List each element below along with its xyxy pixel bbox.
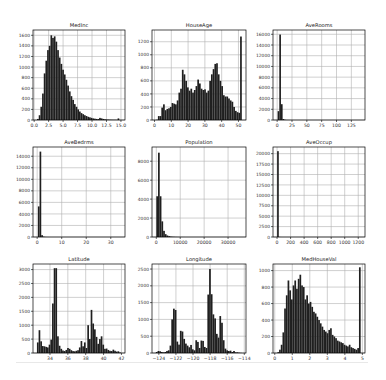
- histogram-bar: [330, 328, 332, 353]
- histogram-bar: [49, 345, 51, 353]
- plot-area: [273, 147, 365, 237]
- histogram-bar: [156, 196, 158, 237]
- histogram-bar: [207, 295, 209, 353]
- y-tick-label: 400: [22, 96, 31, 101]
- histogram-bar: [182, 332, 184, 353]
- histogram-bar: [214, 64, 216, 120]
- histogram-bar: [216, 63, 218, 120]
- y-tick-label: 1000: [138, 52, 149, 57]
- histogram-bar: [213, 69, 215, 120]
- histogram-bar: [40, 341, 42, 353]
- x-tick-label: 10: [168, 123, 174, 128]
- histogram-bar: [190, 89, 192, 120]
- histogram-bar: [209, 81, 211, 120]
- histogram-bar: [82, 346, 84, 353]
- x-tick-label: 2.5: [45, 123, 52, 128]
- histogram-bar: [235, 111, 237, 120]
- histogram-bar: [201, 89, 203, 120]
- y-tick-label: 6000: [138, 178, 149, 183]
- histogram-bar: [228, 98, 230, 120]
- histogram-bar: [96, 337, 98, 353]
- histogram-bar: [211, 74, 213, 120]
- histogram-bar: [38, 206, 40, 237]
- y-tick-label: 6000: [259, 85, 270, 90]
- histogram-bar: [187, 346, 189, 353]
- x-tick-label: 30000: [221, 240, 236, 245]
- x-tick-label: 7.5: [74, 123, 81, 128]
- histogram-bar: [344, 345, 346, 353]
- x-tick-label: 75: [319, 123, 325, 128]
- y-tick-label: 400: [141, 92, 150, 97]
- histogram-bar: [74, 104, 76, 120]
- histogram-bar: [54, 36, 56, 120]
- x-tick-label: 36: [65, 356, 71, 361]
- y-tick-label: 2000: [19, 295, 30, 300]
- histogram-bar: [306, 295, 308, 353]
- y-tick-label: 8000: [138, 159, 149, 164]
- histogram-bar: [39, 115, 41, 120]
- histogram-bar: [342, 343, 344, 353]
- histogram-bar: [213, 314, 215, 353]
- histogram-bar: [204, 89, 206, 120]
- x-tick-label: 2: [308, 356, 311, 361]
- y-tick-label: 200: [22, 107, 31, 112]
- histogram-bar: [320, 323, 322, 353]
- histogram-bar: [202, 90, 204, 120]
- x-tick-label: 0: [276, 123, 279, 128]
- histogram-bar: [305, 299, 307, 353]
- histogram-bar: [313, 312, 315, 353]
- y-tick-label: 500: [141, 334, 150, 339]
- y-tick-label: 600: [141, 78, 150, 83]
- y-tick-label: 500: [22, 337, 31, 342]
- histogram-bar: [284, 309, 286, 354]
- histogram-bar: [289, 290, 291, 353]
- histogram-bar: [237, 112, 239, 120]
- histogram-bar: [89, 339, 91, 353]
- histogram-bar: [52, 303, 54, 353]
- x-tick-label: 10.0: [87, 123, 97, 128]
- histogram-bar: [185, 81, 187, 120]
- histogram-bar: [354, 349, 356, 353]
- histogram-bar: [47, 50, 49, 120]
- y-tick-label: 17500: [256, 162, 270, 167]
- histogram-bar: [216, 334, 218, 353]
- histogram-bar: [170, 346, 172, 353]
- histogram-bar: [350, 347, 352, 353]
- x-tick-label: 1200: [352, 240, 364, 245]
- histogram-bar: [163, 104, 165, 120]
- histogram-bar: [76, 107, 78, 120]
- histogram-bar: [308, 304, 310, 353]
- histogram-bar: [180, 331, 182, 353]
- histogram-bar: [57, 50, 59, 120]
- x-tick-label: 20: [185, 123, 191, 128]
- histogram-bar: [209, 269, 211, 353]
- plot-area: [33, 147, 125, 237]
- histogram-bar: [337, 341, 339, 353]
- histogram-bar: [225, 97, 227, 120]
- subplot-title: Latitude: [68, 256, 89, 262]
- histogram-bar: [92, 324, 94, 353]
- y-tick-label: 1600: [19, 33, 30, 38]
- histogram-bar: [349, 345, 351, 353]
- y-tick-label: 20000: [256, 151, 270, 156]
- histogram-bar: [173, 104, 175, 120]
- histogram-bar: [86, 116, 88, 120]
- histogram-bar: [185, 344, 187, 353]
- histogram-bar: [208, 91, 210, 120]
- subplot-title: AveBedrms: [64, 139, 94, 145]
- y-tick-label: 200: [141, 105, 150, 110]
- histogram-bar: [79, 347, 81, 353]
- histogram-bar: [81, 341, 83, 353]
- histogram-bar: [71, 96, 73, 120]
- histogram-bar: [291, 299, 293, 353]
- histogram-bar: [50, 340, 52, 353]
- histogram-bar: [47, 347, 49, 353]
- x-tick-label: 800: [327, 240, 336, 245]
- histogram-bar: [322, 327, 324, 353]
- x-tick-label: 600: [313, 240, 322, 245]
- histogram-bar: [84, 115, 86, 120]
- y-tick-label: 16000: [256, 32, 270, 37]
- x-tick-label: 40: [101, 356, 107, 361]
- x-tick-label: −114: [238, 356, 251, 361]
- plot-area: [33, 264, 125, 353]
